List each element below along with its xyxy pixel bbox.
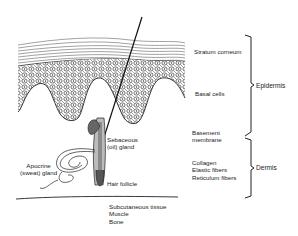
label-bone: Bone bbox=[109, 218, 166, 225]
label-basal-cells: Basal cells bbox=[195, 90, 225, 97]
label-muscle: Muscle bbox=[109, 210, 166, 217]
label-stratum-corneum: Stratum corneum bbox=[194, 48, 241, 55]
dermis-brace bbox=[245, 138, 254, 198]
label-sweat-gland: (sweat) gland bbox=[20, 169, 57, 176]
epidermis-brace bbox=[245, 35, 254, 136]
label-oil-gland: (oil) gland bbox=[107, 143, 138, 150]
label-collagen: Collagen bbox=[192, 159, 236, 166]
basement-membrane-line bbox=[18, 78, 185, 124]
label-apocrine-gland: Apocrine (sweat) gland bbox=[20, 162, 57, 177]
label-basement: Basement bbox=[192, 129, 222, 136]
label-membrane: membrane bbox=[192, 136, 222, 143]
label-dermis: Dermis bbox=[256, 164, 277, 171]
label-dermis-components: Collagen Elastic fibers Reticulum fibers bbox=[192, 159, 236, 181]
label-sebaceous: Sebaceous bbox=[107, 136, 138, 143]
label-sebaceous-gland: Sebaceous (oil) gland bbox=[107, 136, 138, 151]
label-apocrine: Apocrine bbox=[20, 162, 57, 169]
label-epidermis: Epidermis bbox=[256, 82, 285, 89]
label-subcutaneous-tissue: Subcutaneous tissue bbox=[109, 203, 166, 210]
label-basement-membrane: Basement membrane bbox=[192, 129, 222, 144]
label-subcutaneous: Subcutaneous tissue Muscle Bone bbox=[109, 203, 166, 225]
subcutaneous-boundary bbox=[16, 196, 178, 199]
label-elastic-fibers: Elastic fibers bbox=[192, 166, 236, 173]
label-hair-follicle: Hair follicle bbox=[107, 180, 137, 187]
label-reticulum-fibers: Reticulum fibers bbox=[192, 174, 236, 181]
skin-diagram bbox=[0, 0, 298, 236]
